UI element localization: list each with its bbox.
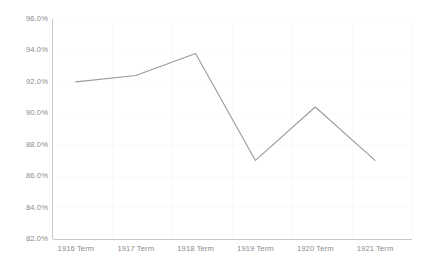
line-chart: 96.0%94.0%92.0%90.0%88.0%86.0%84.0%82.0%…	[0, 0, 434, 266]
x-axis-tick-label: 1919 Term	[237, 245, 274, 253]
x-axis-tick-label: 1921 Term	[357, 245, 394, 253]
x-axis-tick-label: 1920 Term	[297, 245, 334, 253]
x-axis-tick-label: 1916 Term	[58, 245, 95, 253]
x-axis-tick-labels: 1916 Term1917 Term1918 Term1919 Term1920…	[0, 0, 434, 266]
x-axis-tick-label: 1918 Term	[177, 245, 214, 253]
x-axis-tick-label: 1917 Term	[117, 245, 154, 253]
